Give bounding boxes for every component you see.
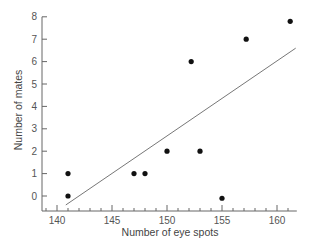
data-point <box>244 37 249 42</box>
x-tick-label: 140 <box>49 215 66 226</box>
data-point <box>197 149 202 154</box>
y-tick-label: 6 <box>31 56 37 67</box>
scatter-chart: 012345678140145150155160 Number of eye s… <box>0 0 318 248</box>
trend-line <box>66 48 296 205</box>
data-point <box>131 171 136 176</box>
y-tick-label: 5 <box>31 79 37 90</box>
data-point <box>189 59 194 64</box>
y-tick-label: 3 <box>31 123 37 134</box>
y-tick-label: 4 <box>31 101 37 112</box>
x-tick-label: 145 <box>104 215 121 226</box>
x-axis-title: Number of eye spots <box>122 226 219 238</box>
y-tick-label: 8 <box>31 11 37 22</box>
y-tick-label: 1 <box>31 168 37 179</box>
data-point <box>65 193 70 198</box>
data-point <box>65 171 70 176</box>
y-tick-label: 2 <box>31 146 37 157</box>
x-tick-label: 155 <box>214 215 231 226</box>
regression-line <box>66 48 296 205</box>
data-point <box>142 171 147 176</box>
y-axis-title: Number of mates <box>12 70 24 151</box>
x-tick-label: 160 <box>269 215 286 226</box>
axes: 012345678140145150155160 <box>31 11 296 226</box>
x-tick-label: 150 <box>159 215 176 226</box>
data-point <box>219 196 224 201</box>
data-point <box>288 19 293 24</box>
y-tick-label: 0 <box>31 191 37 202</box>
data-points <box>65 19 292 201</box>
data-point <box>164 149 169 154</box>
y-tick-label: 7 <box>31 34 37 45</box>
